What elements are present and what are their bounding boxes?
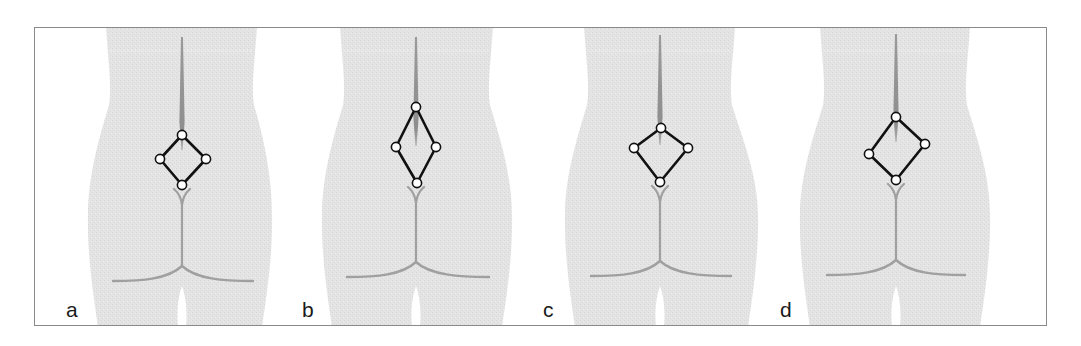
landmark-point-bottom bbox=[655, 177, 664, 186]
panel-label-d: d bbox=[780, 298, 792, 321]
panel-a bbox=[88, 26, 272, 327]
landmark-point-left bbox=[155, 154, 164, 163]
landmark-point-right bbox=[683, 143, 692, 152]
panel-c bbox=[565, 26, 758, 327]
landmark-point-top bbox=[411, 102, 420, 111]
landmark-point-top bbox=[656, 123, 665, 132]
landmark-point-right bbox=[201, 154, 210, 163]
landmark-point-top bbox=[891, 112, 900, 121]
panel-b bbox=[322, 26, 512, 327]
landmark-point-bottom bbox=[412, 178, 421, 187]
panel-d bbox=[800, 26, 990, 327]
rhombus-of-michaelis-figure: abcd bbox=[0, 0, 1081, 346]
landmark-point-left bbox=[391, 142, 400, 151]
panel-label-c: c bbox=[543, 298, 554, 321]
landmark-point-bottom bbox=[177, 180, 186, 189]
landmark-point-right bbox=[431, 142, 440, 151]
landmark-point-left bbox=[629, 143, 638, 152]
panel-label-b: b bbox=[302, 298, 314, 321]
landmark-point-bottom bbox=[891, 175, 900, 184]
landmark-point-right bbox=[920, 139, 929, 148]
landmark-point-top bbox=[177, 130, 186, 139]
landmark-point-left bbox=[864, 149, 873, 158]
panel-label-a: a bbox=[66, 298, 78, 321]
